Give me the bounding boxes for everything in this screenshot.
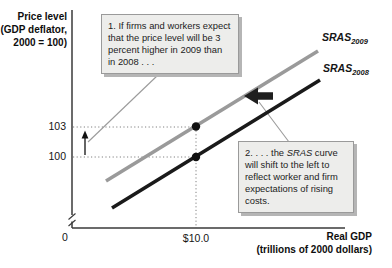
shift-left-arrow-icon <box>244 88 273 105</box>
sras-2009-label: SRAS2009 <box>322 31 368 46</box>
sras-2008-label: SRAS2008 <box>323 62 369 77</box>
point-103-dot <box>192 122 200 130</box>
y-tick-100: 100 <box>36 150 66 162</box>
callout-1-box: 1. If firms and workers expect that the … <box>101 14 239 74</box>
sras-2009-label-base: SRAS <box>322 31 351 43</box>
x-axis-title: Real GDP (trillions of 2000 dollars) <box>225 231 372 257</box>
y-axis-title-line1: Price level <box>0 11 67 24</box>
sras-2008-label-base: SRAS <box>323 62 352 74</box>
sras-2008-label-sub: 2008 <box>352 68 369 77</box>
x-axis-title-line1: Real GDP <box>225 231 372 244</box>
callout-1-text: 1. If firms and workers expect that the … <box>108 20 230 67</box>
y-axis-title-line3: 2000 = 100) <box>0 37 67 50</box>
y-axis-title: Price level (GDP deflator, 2000 = 100) <box>0 11 67 49</box>
origin-label: 0 <box>58 231 72 243</box>
callout1-pointer-line <box>88 75 158 142</box>
y-axis-title-line2: (GDP deflator, <box>0 24 67 37</box>
sras-shift-figure: Price level (GDP deflator, 2000 = 100) 1… <box>0 0 392 268</box>
callout-2-prefix: 2. . . . the <box>245 147 287 158</box>
price-rise-arrow-head-icon <box>82 131 89 139</box>
x-axis-title-line2: (trillions of 2000 dollars) <box>225 244 372 257</box>
sras-2009-label-sub: 2009 <box>351 37 368 46</box>
y-tick-103: 103 <box>36 120 66 132</box>
point-100-dot <box>192 153 200 161</box>
callout-2-term: SRAS <box>287 147 313 158</box>
x-tick-10: $10.0 <box>170 232 222 244</box>
callout-2-box: 2. . . . the SRAS curve will shift to th… <box>238 141 354 213</box>
